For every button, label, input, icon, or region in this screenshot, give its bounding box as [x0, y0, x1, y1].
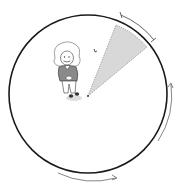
figure-legs	[62, 81, 76, 93]
shaded-sector	[88, 25, 147, 96]
figure-shoe-left	[69, 94, 73, 98]
bracket-end-bottom	[151, 38, 156, 42]
arrow-bottom-curve	[58, 173, 116, 181]
arrow-right-head-icon	[168, 83, 173, 88]
arrow-bottom-head-icon	[112, 175, 117, 180]
figure-eye-left	[64, 56, 65, 57]
diagram-canvas	[0, 0, 178, 183]
figure-shadow	[66, 95, 82, 101]
figure-face	[61, 51, 74, 65]
figure-shoe-right	[75, 92, 79, 96]
cartoon-figure	[54, 42, 82, 101]
sector-vertex-dot	[87, 95, 89, 97]
figure-eye-right	[68, 56, 69, 57]
large-circle	[9, 15, 167, 173]
bird-icon	[94, 49, 97, 52]
figure-hands	[66, 76, 72, 80]
